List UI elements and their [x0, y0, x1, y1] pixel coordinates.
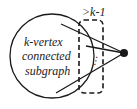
edge-middle	[86, 46, 124, 53]
subgraph-label-line-2: connected	[22, 49, 72, 63]
boundary-label: >k-1	[82, 5, 105, 19]
k-connectivity-diagram: >k-1 k-vertex connected subgraph ⋮	[0, 0, 137, 109]
ellipsis-dots: ⋮	[90, 55, 100, 66]
subgraph-label-line-1: k-vertex	[24, 35, 63, 49]
subgraph-label-line-3: subgraph	[25, 64, 70, 78]
external-vertex	[120, 49, 128, 57]
